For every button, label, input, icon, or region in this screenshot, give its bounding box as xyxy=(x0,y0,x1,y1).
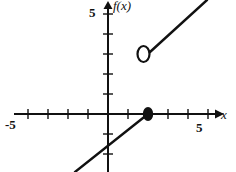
upper-branch-line xyxy=(150,0,207,52)
function-graph-figure: f(x) x 5 -5 5 xyxy=(0,0,236,172)
x-axis-tick-label-5: 5 xyxy=(196,120,203,136)
x-axis-group xyxy=(14,109,224,119)
endpoint-markers xyxy=(138,46,154,121)
y-axis-label: f(x) xyxy=(113,0,131,14)
lower-branch-line xyxy=(75,114,148,172)
graph-canvas xyxy=(0,0,236,172)
y-axis-tick-label-5: 5 xyxy=(89,5,96,21)
y-axis-arrowhead xyxy=(104,1,113,9)
x-axis-tick-label-neg5: -5 xyxy=(5,117,16,133)
open-circle-marker xyxy=(138,46,150,62)
closed-circle-marker xyxy=(143,107,153,121)
x-axis-label: x xyxy=(221,107,227,123)
function-curves xyxy=(75,0,207,172)
